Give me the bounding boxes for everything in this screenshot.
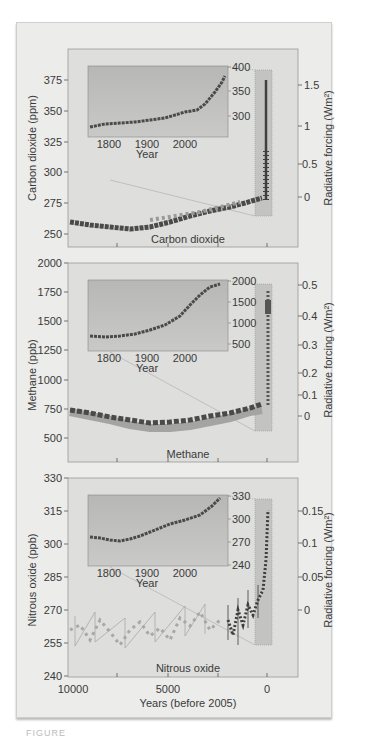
xtick: 10000	[58, 683, 89, 695]
right-axis-label: Radiative forcing (Wm²)	[322, 90, 334, 206]
ytick: 325	[44, 136, 62, 148]
rtick: 1	[304, 120, 310, 132]
ytick: 300	[44, 538, 62, 550]
inset-xlabel: Year	[136, 148, 159, 160]
inset-ytick: 2000	[232, 275, 256, 287]
rtick: 0.1	[302, 389, 317, 401]
inset-ytick: 1000	[232, 317, 256, 329]
inset-xtick: 1800	[97, 567, 121, 579]
rtick: 0	[304, 191, 310, 203]
ytick: 1500	[38, 315, 62, 327]
ytick: 1250	[38, 344, 62, 356]
panel-title: Nitrous oxide	[156, 662, 220, 674]
figure-caption-fragment: FIGURE	[26, 728, 66, 738]
ytick: 330	[44, 472, 62, 484]
inset-xlabel: Year	[136, 362, 159, 374]
panel-title: Carbon dioxide	[151, 233, 225, 245]
rtick: 0.3	[302, 339, 317, 351]
ytick: 350	[44, 105, 62, 117]
ytick: 315	[44, 505, 62, 517]
inset-xtick: 2000	[173, 352, 197, 364]
rtick: 0.2	[302, 367, 317, 379]
ytick: 255	[44, 637, 62, 649]
y-axis-label: Carbon dioxide (ppm)	[26, 95, 38, 201]
inset-ytick: 300	[232, 110, 250, 122]
panel-methane: 2000 1750 1500 1250 1000 750 500 0.5 0.4…	[26, 257, 334, 462]
xtick: 0	[264, 683, 270, 695]
panel-title: Methane	[167, 448, 210, 460]
inset-ytick: 270	[232, 536, 250, 548]
ytick: 250	[44, 228, 62, 240]
ytick: 285	[44, 571, 62, 583]
y-axis-label: Methane (ppb)	[26, 339, 38, 411]
inset-xtick: 2000	[173, 567, 197, 579]
panel-nitrous-oxide: 330 315 300 285 270 255 240 0.15 0.1 0.0…	[26, 472, 334, 682]
rtick: 1.5	[304, 79, 319, 91]
rtick: 0.5	[302, 158, 317, 170]
inset-xlabel: Year	[136, 577, 159, 589]
inset-ytick: 240	[232, 559, 250, 571]
ytick: 500	[44, 432, 62, 444]
y-axis-label: Nitrous oxide (ppb)	[26, 534, 38, 627]
ytick: 300	[44, 166, 62, 178]
figure-svg: 375 350 325 300 275 250 1.5 1 0.5 0 Carb…	[0, 0, 366, 738]
inset-ytick: 500	[232, 338, 250, 350]
rtick: 0	[304, 604, 310, 616]
ytick: 2000	[38, 257, 62, 269]
ytick: 750	[44, 403, 62, 415]
inset-ytick: 1500	[232, 296, 256, 308]
x-axis-label: Years (before 2005)	[140, 697, 237, 709]
inset-ytick: 330	[232, 490, 250, 502]
ytick: 1000	[38, 374, 62, 386]
inset-xtick: 1800	[97, 138, 121, 150]
right-axis-label: Radiative forcing (Wm²)	[322, 512, 334, 628]
rtick: 0.5	[302, 279, 317, 291]
rtick: 0.05	[302, 571, 323, 583]
ytick: 240	[44, 670, 62, 682]
inset-xtick: 1800	[97, 352, 121, 364]
rtick: 0	[304, 410, 310, 422]
panel-carbon-dioxide: 375 350 325 300 275 250 1.5 1 0.5 0 Carb…	[26, 49, 334, 247]
rtick: 0.15	[302, 505, 323, 517]
xtick: 5000	[156, 683, 180, 695]
right-axis-label: Radiative forcing (Wm²)	[322, 302, 334, 418]
inset-ytick: 300	[232, 513, 250, 525]
inset-ytick: 400	[232, 61, 250, 73]
ytick: 375	[44, 74, 62, 86]
ytick: 275	[44, 197, 62, 209]
rtick: 0.1	[302, 537, 317, 549]
inset-xtick: 2000	[173, 138, 197, 150]
inset-ytick: 350	[232, 85, 250, 97]
rtick: 0.4	[302, 310, 317, 322]
ytick: 270	[44, 604, 62, 616]
ytick: 1750	[38, 286, 62, 298]
